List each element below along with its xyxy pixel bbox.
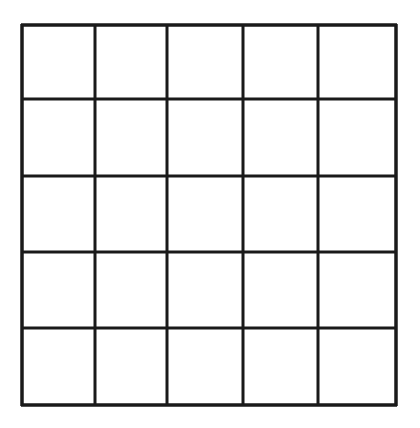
empty-grid-diagram [0, 0, 420, 428]
grid-cell [243, 25, 318, 99]
grid-cell [167, 328, 243, 405]
grid-cell [318, 328, 396, 405]
grid-cell [95, 328, 167, 405]
grid-cell [22, 25, 95, 99]
grid-cell [318, 252, 396, 328]
grid-cell [167, 252, 243, 328]
grid-cell [318, 176, 396, 252]
grid-cell [22, 176, 95, 252]
grid-cell [318, 99, 396, 176]
grid-cell [22, 252, 95, 328]
grid-cell [318, 25, 396, 99]
grid-cell [167, 176, 243, 252]
grid-cell [167, 25, 243, 99]
grid-cell [95, 176, 167, 252]
grid-cell [243, 176, 318, 252]
grid-cell [95, 252, 167, 328]
grid-cell [167, 99, 243, 176]
grid-cell [22, 328, 95, 405]
grid-cell [243, 328, 318, 405]
grid-cell [95, 99, 167, 176]
grid-cell [95, 25, 167, 99]
grid-cell [22, 99, 95, 176]
grid-cell [243, 99, 318, 176]
grid-cell [243, 252, 318, 328]
